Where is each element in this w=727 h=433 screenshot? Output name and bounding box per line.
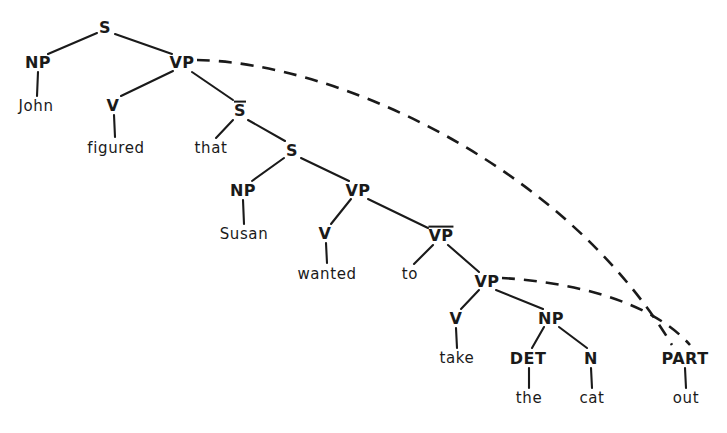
tree-node-vp3: VP [474, 272, 499, 291]
tree-branch-VP2-VPBAR [368, 199, 428, 228]
arc-vp1-part [197, 60, 672, 345]
tree-branch-SBAR-w_that [216, 120, 233, 138]
tree-node-v2: V [319, 224, 332, 243]
tree-node-v1: V [107, 96, 120, 115]
tree-node-det: DET [510, 349, 547, 368]
tree-node-vp2: VP [345, 181, 370, 200]
tree-node-s1: S [99, 18, 111, 37]
tree-leaf-wanted: wanted [297, 265, 356, 283]
tree-leaf-figured: figured [87, 139, 144, 157]
solid-branch-group [37, 33, 686, 388]
tree-leaf-out: out [673, 389, 699, 407]
tree-node-sbar: S [234, 101, 246, 120]
tree-branch-VP1-SBAR [192, 72, 233, 100]
tree-leaf-cat: cat [579, 389, 604, 407]
tree-branch-VP1-V1 [121, 71, 173, 96]
tree-leaf-take: take [440, 349, 475, 367]
tree-branch-NP3-DET [532, 327, 544, 348]
tree-node-n1: N [584, 349, 598, 368]
tree-branch-N1-w_cat [591, 368, 592, 388]
tree-branch-SBAR-S2 [248, 120, 285, 141]
tree-branch-S2-NP2 [252, 158, 284, 181]
tree-node-part: PART [661, 349, 708, 368]
tree-branch-VP3-NP3 [496, 290, 543, 309]
tree-branches-layer [0, 0, 727, 433]
tree-branch-PART-w_out [685, 368, 686, 388]
tree-node-v3: V [450, 309, 463, 328]
tree-node-np3: NP [538, 309, 564, 328]
tree-branch-NP2-w_susan [243, 200, 244, 224]
tree-branch-VPBAR-w_to [414, 245, 433, 264]
arc-vp3-part [502, 278, 690, 345]
tree-node-np2: NP [230, 181, 256, 200]
tree-branch-S2-VP2 [301, 158, 349, 181]
tree-node-np1: NP [25, 53, 51, 72]
tree-leaf-to: to [402, 265, 418, 283]
tree-leaf-the: the [516, 389, 542, 407]
tree-branch-VPBAR-VP3 [448, 245, 479, 272]
movement-arc-group [197, 60, 690, 345]
tree-branch-S1-VP1 [115, 34, 172, 54]
tree-branch-V2-w_wanted [326, 243, 327, 263]
tree-branch-V3-w_take [456, 328, 457, 348]
tree-node-vpbar: VP [428, 226, 453, 245]
syntax-tree-diagram: SNPVPVSSNPVPVVPVPVNPDETNPART Johnfigured… [0, 0, 727, 433]
tree-leaf-susan: Susan [220, 225, 269, 243]
tree-node-s2: S [286, 141, 298, 160]
tree-branch-VP3-V3 [461, 290, 479, 309]
tree-leaf-that: that [195, 139, 228, 157]
tree-branch-VP2-V2 [331, 199, 351, 224]
tree-node-vp1: VP [169, 53, 194, 72]
tree-branch-NP3-N1 [559, 327, 587, 348]
tree-branch-V1-w_figured [114, 115, 115, 137]
tree-branch-S1-NP1 [48, 33, 97, 54]
tree-leaf-john: John [18, 97, 53, 115]
tree-branch-NP1-w_john [37, 72, 38, 96]
